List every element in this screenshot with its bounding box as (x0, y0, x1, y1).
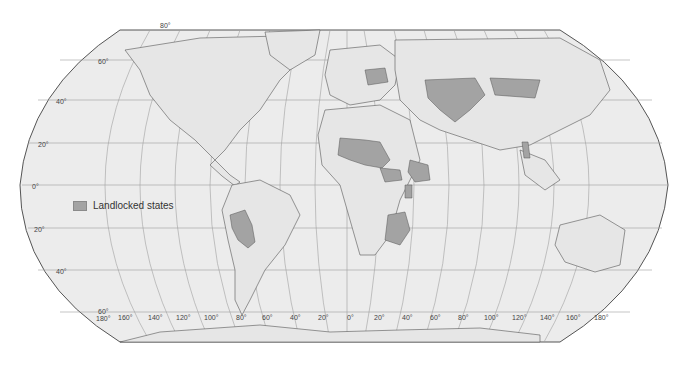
lon-label: 20° (374, 314, 385, 321)
lon-label: 140° (148, 314, 163, 321)
mongolia (490, 78, 540, 98)
lat-label-20: 20° (38, 141, 49, 148)
world-map: 80° 60° 40° 20° 0° 20° 40° 60° 180° 160°… (0, 0, 694, 369)
central-europe (365, 68, 388, 85)
lon-label: 180° (594, 314, 609, 321)
lat-label-0: 0° (32, 183, 39, 190)
lat-label-80: 80° (160, 22, 171, 29)
map-legend: Landlocked states (73, 200, 174, 211)
lon-label: 0° (347, 314, 354, 321)
lat-label-40: 40° (56, 98, 67, 105)
uganda-rwanda (405, 185, 412, 198)
lon-label: 80° (458, 314, 469, 321)
lon-label: 80° (236, 314, 247, 321)
lon-label: 20° (318, 314, 329, 321)
lat-label-m60: 60° (98, 308, 109, 315)
lat-label-60: 60° (98, 58, 109, 65)
lon-label: 160° (566, 314, 581, 321)
lon-label: 100° (484, 314, 499, 321)
lon-label: 100° (204, 314, 219, 321)
lon-label: 40° (290, 314, 301, 321)
legend-label: Landlocked states (93, 200, 174, 211)
lon-label: 60° (262, 314, 273, 321)
lon-label: 40° (402, 314, 413, 321)
lon-label: 60° (430, 314, 441, 321)
lon-label: 120° (176, 314, 191, 321)
legend-swatch (73, 201, 87, 211)
lat-label-m20: 20° (34, 226, 45, 233)
lon-label: 180° (96, 315, 111, 322)
lat-label-m40: 40° (56, 268, 67, 275)
lon-label: 120° (512, 314, 527, 321)
lon-label: 140° (540, 314, 555, 321)
lon-label: 160° (118, 314, 133, 321)
